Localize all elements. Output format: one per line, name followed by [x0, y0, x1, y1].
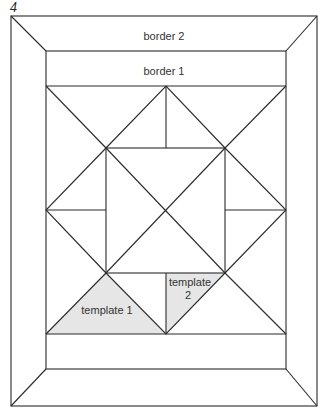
mitre-bottom-right [286, 369, 317, 406]
label-template-1: template 1 [81, 304, 132, 316]
label-template-2-line2: 2 [185, 289, 191, 301]
diamond-right-top [225, 86, 286, 148]
label-template-2-line1: template [169, 276, 211, 288]
mitre-top-right [286, 16, 317, 51]
label-border-2: border 2 [144, 30, 185, 42]
mitre-top-left [11, 16, 46, 51]
mitre-bottom-left [11, 369, 46, 406]
quilt-diagram: border 2 border 1 template 1 template 2 [0, 0, 326, 415]
label-border-1: border 1 [144, 65, 185, 77]
diamond-right-bottom [225, 273, 286, 334]
diamond-left-top [46, 86, 106, 148]
